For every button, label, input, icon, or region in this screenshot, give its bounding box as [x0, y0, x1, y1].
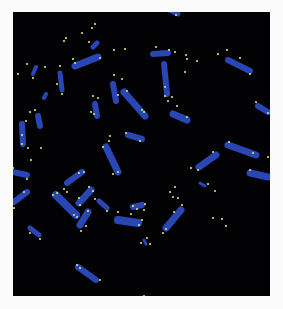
telomere-signal [30, 159, 32, 161]
telomere-signal [164, 95, 166, 97]
telomere-signal [196, 60, 198, 62]
telomere-signal [239, 57, 241, 59]
chromosome [113, 84, 116, 101]
chromosome [133, 205, 142, 207]
telomere-signal [125, 132, 127, 134]
telomere-signal [143, 295, 145, 296]
chromosome [199, 155, 216, 167]
telomere-signal [164, 86, 166, 88]
telomere-signal [117, 211, 119, 213]
chromosome [93, 43, 97, 47]
telomere-signal [25, 120, 27, 122]
telomere-signal [141, 219, 143, 221]
chromosome [60, 73, 62, 90]
telomere-signal [186, 58, 188, 60]
telomere-signal [228, 141, 230, 143]
telomere-signal [76, 264, 78, 266]
telomere-signal [169, 191, 171, 193]
telomere-signal [174, 51, 176, 53]
chromosome [33, 67, 36, 74]
telomere-signal [61, 93, 63, 95]
telomere-signal [249, 73, 251, 75]
telomere-signal [184, 71, 186, 73]
chromosome [14, 192, 27, 202]
telomere-signal [171, 96, 173, 98]
telomere-signal [32, 77, 34, 79]
telomere-signal [185, 54, 187, 56]
chromosome [30, 228, 39, 235]
telomere-signal [252, 152, 254, 154]
telomere-signal [92, 190, 94, 192]
telomere-signal [221, 218, 223, 220]
telomere-signal [113, 49, 115, 51]
telomere-signal [21, 143, 23, 145]
chromosome [250, 173, 268, 177]
telomere-signal [13, 207, 15, 209]
telomere-signal [117, 171, 119, 173]
telomere-signal [79, 204, 81, 206]
telomere-signal [217, 53, 219, 55]
telomere-signal [109, 135, 111, 137]
telomere-signal [165, 228, 167, 230]
telomere-signal [21, 134, 23, 136]
chromosome [38, 116, 40, 126]
telomere-signal [136, 208, 138, 210]
telomere-signal [78, 197, 80, 199]
telomere-signal [27, 147, 29, 149]
chromosome [13, 172, 27, 175]
telomere-signal [186, 116, 188, 118]
telomere-signal [74, 62, 76, 64]
telomere-signal [56, 83, 58, 85]
chromosome [80, 212, 88, 225]
chromosome-spread [13, 12, 270, 296]
telomere-signal [146, 237, 148, 239]
telomere-signal [23, 191, 25, 193]
telomere-signal [94, 23, 96, 25]
telomere-signal [63, 40, 65, 42]
telomere-signal [144, 203, 146, 205]
telomere-signal [139, 140, 141, 142]
chromosome [144, 240, 146, 244]
telomere-signal [141, 109, 143, 111]
telomere-signal [212, 151, 214, 153]
telomere-signal [168, 49, 170, 51]
telomere-signal [88, 41, 90, 43]
telomere-signal [176, 105, 178, 107]
chromosome [228, 60, 250, 71]
telomere-signal [117, 94, 119, 96]
telomere-signal [91, 27, 93, 29]
telomere-signal [79, 267, 81, 269]
telomere-signal [267, 112, 269, 114]
telomere-signal [162, 232, 164, 234]
telomere-signal [130, 213, 132, 215]
chromosome [228, 145, 256, 155]
telomere-signal [76, 216, 78, 218]
telomere-signal [226, 49, 228, 51]
telomere-signal [149, 243, 151, 245]
telomere-signal [172, 196, 174, 198]
telomere-signal [40, 147, 42, 149]
chromosome [79, 190, 91, 203]
telomere-signal [214, 190, 216, 192]
telomere-signal [112, 173, 114, 175]
telomere-signal [108, 140, 110, 142]
telomere-signal [39, 238, 41, 240]
telomere-signal [174, 186, 176, 188]
telomere-signal [81, 32, 83, 34]
telomere-signal [167, 100, 169, 102]
telomere-signal [13, 167, 14, 169]
chromosome [173, 114, 187, 120]
chromosome [200, 183, 205, 186]
telomere-signal [34, 109, 36, 111]
telomere-signal [26, 63, 28, 65]
chromosome [106, 147, 118, 172]
telomere-signal [52, 194, 54, 196]
telomere-signal [65, 37, 67, 39]
telomere-signal [29, 111, 31, 113]
telomere-signal [90, 111, 92, 113]
telomere-signal [249, 169, 251, 171]
chromosome [128, 135, 142, 139]
telomere-signal [26, 178, 28, 180]
telomere-signal [29, 232, 31, 234]
telomere-signal [78, 172, 80, 174]
